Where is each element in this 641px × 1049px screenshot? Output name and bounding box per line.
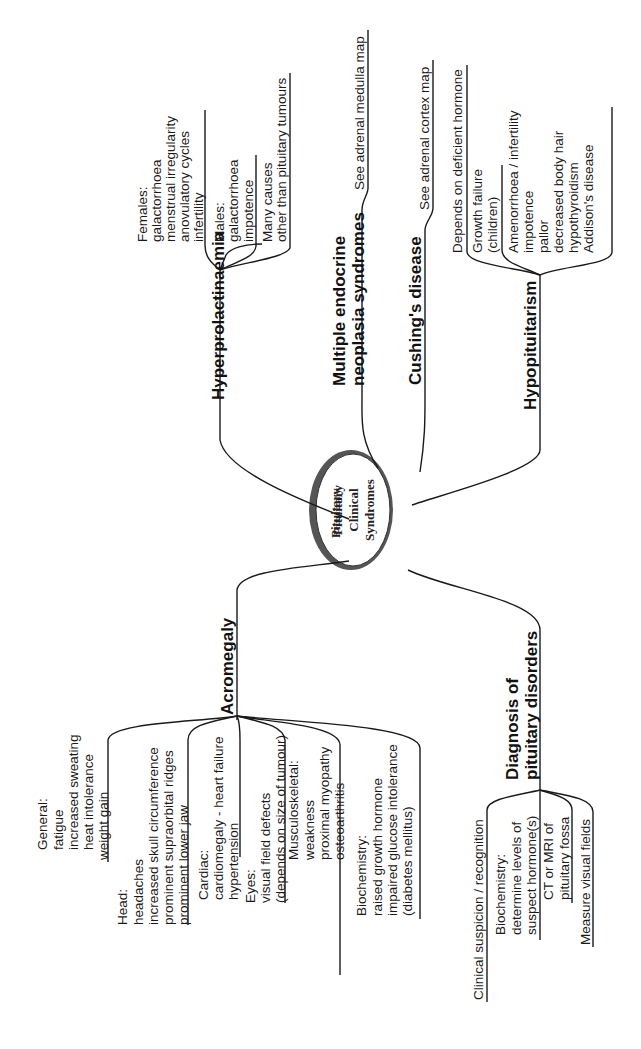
svg-text:pallor: pallor [536,219,551,253]
svg-text:impotence: impotence [241,180,256,242]
diagnosis-title-line-2: pituitary disorders [522,631,541,780]
svg-text:other than pituitary tumours: other than pituitary tumours [274,77,289,242]
svg-text:menstrual irregularity: menstrual irregularity [163,116,178,242]
central-node: Pituitary Pituitary Clinical Syndromes [309,450,393,570]
head-symptoms: Head: headaches increased skull circumfe… [115,747,191,925]
svg-text:galactorrhoea: galactorrhoea [226,159,241,242]
svg-text:Cardiac:: Cardiac: [196,850,211,900]
svg-text:Amenorrhoea / infertility: Amenorrhoea / infertility [506,110,521,253]
branch-hypopituitarism: Hypopituitarism Depends on deficient hor… [450,65,612,410]
center-line-3-text: Syndromes [362,479,377,541]
svg-text:infertility: infertility [191,192,206,242]
connectors [220,30,540,790]
measure-visual-fields: Measure visual fields [578,819,593,945]
svg-text:osteoarthritis: osteoarthritis [332,782,347,860]
men-title-line-1: Multiple endocrine [330,236,349,386]
females-symptoms: Females: galactorrhoea menstrual irregul… [135,116,206,242]
branch-hyperprolactinaemia: Hyperprolactinaemia Females: galactorrho… [135,73,290,400]
svg-text:Biochemistry:: Biochemistry: [493,854,508,935]
svg-text:weight gain: weight gain [96,792,111,861]
males-symptoms: Males: galactorrhoea impotence [212,159,256,242]
svg-text:hypertension: hypertension [226,823,241,900]
cardiac-symptoms: Cardiac: cardiomegaly - heart failure hy… [196,736,241,900]
acromegaly-title: Acromegaly [218,617,237,715]
svg-text:General:: General: [35,798,50,850]
men-title-line-2: neoplasia syndromes [349,212,368,386]
cushings-title: Cushing's disease [406,236,425,385]
svg-text:suspect hormone(s): suspect hormone(s) [524,816,539,935]
svg-text:increased skull circumference: increased skull circumference [146,747,161,925]
svg-text:galactorrhoea: galactorrhoea [149,159,164,242]
svg-text:Eyes:: Eyes: [243,869,258,903]
svg-text:impotence: impotence [521,191,536,253]
mind-map: Pituitary Pituitary Clinical Syndromes H… [0,0,641,1049]
svg-text:Head:: Head: [115,889,130,925]
svg-text:proximal myopathy: proximal myopathy [317,746,332,860]
svg-text:increased sweating: increased sweating [66,734,81,850]
clinical-suspicion: Clinical suspicion / recognition [471,819,486,1000]
svg-text:determine levels of: determine levels of [509,821,524,935]
branch-diagnosis: Diagnosis of pituitary disorders Clinica… [471,631,593,1002]
svg-text:headaches: headaches [131,859,146,925]
eyes-symptoms: Eyes: visual field defects (depends on s… [243,735,288,903]
svg-text:Growth failure: Growth failure [470,169,485,253]
adrenal-cortex-link[interactable]: See adrenal cortex map [417,67,432,210]
biochemistry-findings: Biochemistry: raised growth hormone impa… [354,744,415,916]
svg-text:fatigue: fatigue [51,809,66,850]
svg-text:heat intolerance: heat intolerance [81,754,96,850]
center-line-1-text: Pituitary [330,485,345,535]
svg-text:Many causes: Many causes [260,162,275,242]
svg-text:Females:: Females: [135,186,150,242]
hypopituitarism-title: Hypopituitarism [521,281,540,410]
hyperprolactinaemia-title: Hyperprolactinaemia [209,231,228,400]
svg-text:Biochemistry:: Biochemistry: [354,835,369,916]
svg-text:anovulatory cycles: anovulatory cycles [177,131,192,242]
svg-text:cardiomegaly - heart failure: cardiomegaly - heart failure [211,736,226,900]
svg-text:(children): (children) [485,197,500,253]
branch-cushings: Cushing's disease See adrenal cortex map [406,67,432,385]
svg-text:decreased body hair: decreased body hair [551,130,566,253]
svg-text:prominent supraorbital ridges: prominent supraorbital ridges [161,750,176,925]
svg-text:weakness: weakness [302,800,317,861]
svg-text:pituitary fossa: pituitary fossa [557,816,572,900]
general-symptoms: General: fatigue increased sweating heat… [35,734,111,861]
svg-text:visual field defects: visual field defects [258,792,273,903]
svg-text:Addison's disease: Addison's disease [581,145,596,253]
svg-text:CT or MRI of: CT or MRI of [541,823,556,900]
svg-text:Males:: Males: [212,202,227,242]
svg-text:impaired glucose intolerance: impaired glucose intolerance [385,744,400,916]
svg-text:prominent lower jaw: prominent lower jaw [176,805,191,925]
center-line-2-text: Clinical [346,488,361,532]
musculoskeletal-symptoms: Musculoskeletal: weakness proximal myopa… [286,746,347,861]
diagnosis-title-line-1: Diagnosis of [503,678,522,780]
svg-text:Musculoskeletal:: Musculoskeletal: [286,760,301,860]
depends-note: Depends on deficient hormone [450,69,465,253]
adrenal-medulla-link[interactable]: See adrenal medulla map [352,36,367,190]
causes-note: Many causes other than pituitary tumours [260,77,289,242]
svg-text:hypothyroidism: hypothyroidism [566,162,581,253]
branch-acromegaly: Acromegaly General: fatigue increased sw… [35,617,420,975]
svg-text:(diabetes mellitus): (diabetes mellitus) [400,806,415,916]
svg-text:raised growth hormone: raised growth hormone [370,778,385,916]
